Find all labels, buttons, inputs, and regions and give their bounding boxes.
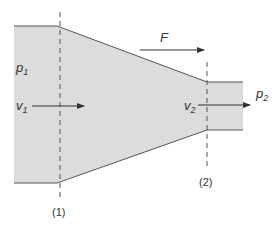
- force-label: F: [160, 30, 169, 45]
- pipe-diagram: p1 v1 F v2 p2 (1) (2): [0, 0, 277, 229]
- p2-label: p2: [255, 86, 268, 103]
- section-1-label: (1): [52, 206, 65, 218]
- section-2-label: (2): [199, 176, 212, 188]
